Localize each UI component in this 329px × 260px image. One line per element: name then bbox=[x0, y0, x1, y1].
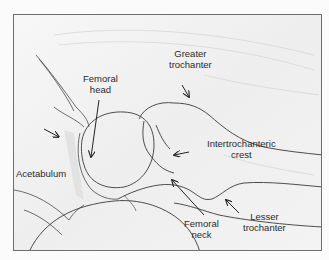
label-greater-trochanter: Greater trochanter bbox=[169, 48, 212, 70]
label-femoral-neck: Femoral neck bbox=[184, 218, 219, 240]
figure-frame: Acetabulum Femoral head Greater trochant… bbox=[13, 14, 322, 251]
label-intertrochanteric-crest: Intertrochanteric crest bbox=[207, 138, 276, 160]
label-acetabulum: Acetabulum bbox=[16, 168, 66, 179]
label-femoral-head: Femoral head bbox=[83, 73, 118, 95]
label-lesser-trochanter: Lesser trochanter bbox=[243, 211, 286, 233]
